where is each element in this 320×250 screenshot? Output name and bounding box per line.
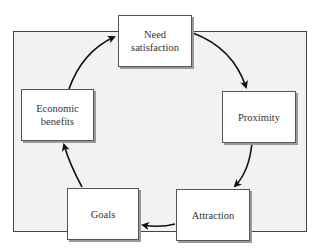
node-attraction: Attraction: [176, 189, 250, 241]
node-goals: Goals: [67, 188, 139, 240]
arrow-attraction-to-goals: [143, 224, 175, 226]
node-label: Proximity: [238, 111, 280, 124]
arrow-proximity-to-attraction: [235, 143, 252, 186]
arrow-economic-to-need: [69, 37, 114, 89]
node-label: Attraction: [192, 209, 235, 222]
node-need-satisfaction: Need satisfaction: [118, 15, 192, 67]
arrow-need-to-proximity: [193, 33, 246, 87]
arrow-goals-to-economic: [64, 145, 82, 187]
node-label: Need satisfaction: [131, 28, 179, 54]
node-economic-benefits: Economic benefits: [21, 89, 94, 141]
node-label: Economic benefits: [36, 102, 79, 128]
node-label: Goals: [91, 208, 116, 221]
node-proximity: Proximity: [222, 91, 296, 143]
